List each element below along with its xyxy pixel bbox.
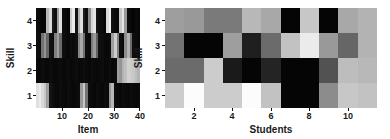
right-xtick-2: 2 <box>191 112 196 121</box>
right-xtickmark-10 <box>348 108 349 111</box>
right-heatmap-cell <box>242 33 261 58</box>
right-xtick-8: 8 <box>306 112 311 121</box>
right-heatmap-plot-area <box>165 8 377 108</box>
right-heatmap-cell <box>184 33 203 58</box>
right-heatmap-cell <box>300 58 319 83</box>
right-heatmap-cell <box>165 58 184 83</box>
right-heatmap-cell <box>223 33 242 58</box>
right-heatmap-cell <box>300 33 319 58</box>
left-xtick-20: 20 <box>83 112 93 121</box>
right-heatmap-cell <box>165 8 184 33</box>
right-heatmap-cell <box>242 8 261 33</box>
right-heatmap-cell <box>184 58 203 83</box>
left-xtickmark-40 <box>139 108 140 111</box>
right-xtick-10: 10 <box>343 112 353 121</box>
left-xtick-10: 10 <box>57 112 67 121</box>
right-heatmap-cell <box>338 8 357 33</box>
left-heatmap-plot-area <box>36 8 140 108</box>
right-yaxis-label: Skill <box>134 48 144 69</box>
right-heatmap-cell <box>261 8 280 33</box>
right-heatmap-cell <box>358 33 377 58</box>
right-heatmap-cell <box>242 58 261 83</box>
right-heatmap-cell <box>261 58 280 83</box>
right-heatmap-cell <box>338 83 357 108</box>
right-heatmap-cell <box>184 8 203 33</box>
right-xtickmark-8 <box>309 108 310 111</box>
right-heatmap-cell <box>281 83 300 108</box>
right-heatmap-cell <box>358 58 377 83</box>
right-heatmap-cell <box>300 83 319 108</box>
left-ytickmark-2 <box>33 70 36 71</box>
left-xtick-30: 30 <box>109 112 119 121</box>
right-heatmap-cell <box>242 83 261 108</box>
right-ytick-2: 2 <box>148 66 160 75</box>
left-ytick-2: 2 <box>20 66 32 75</box>
left-ytick-3: 3 <box>20 41 32 50</box>
right-heatmap-cell <box>338 33 357 58</box>
right-heatmap-cell <box>223 83 242 108</box>
right-heatmap-cell <box>204 83 223 108</box>
right-heatmap-cell <box>165 33 184 58</box>
right-heatmap-cell <box>223 8 242 33</box>
right-heatmap-cell <box>204 33 223 58</box>
right-ytickmark-2 <box>162 70 165 71</box>
right-xtickmark-4 <box>232 108 233 111</box>
right-xaxis-label: Students <box>250 125 293 135</box>
left-ytick-1: 1 <box>20 91 32 100</box>
left-ytickmark-3 <box>33 45 36 46</box>
right-xtickmark-2 <box>194 108 195 111</box>
right-heatmap-cell <box>204 8 223 33</box>
right-heatmap-cell <box>261 33 280 58</box>
right-heatmap-cell <box>319 8 338 33</box>
right-xtick-4: 4 <box>229 112 234 121</box>
right-ytick-1: 1 <box>148 91 160 100</box>
right-heatmap-cell <box>319 33 338 58</box>
left-ytickmark-1 <box>33 95 36 96</box>
left-heatmap-cell <box>137 8 140 33</box>
right-heatmap-cell <box>281 33 300 58</box>
right-xtickmark-6 <box>271 108 272 111</box>
right-heatmap-cell <box>261 83 280 108</box>
right-heatmap-cell <box>338 58 357 83</box>
left-heatmap-cell <box>137 83 140 108</box>
right-ytick-4: 4 <box>148 16 160 25</box>
left-xtickmark-10 <box>62 108 63 111</box>
right-heatmap-cell <box>281 8 300 33</box>
right-xtick-6: 6 <box>268 112 273 121</box>
right-heatmap-cell <box>319 58 338 83</box>
right-heatmap-cell <box>165 83 184 108</box>
right-heatmap-cell <box>223 58 242 83</box>
right-heatmap-cell <box>204 58 223 83</box>
right-heatmap-cell <box>300 8 319 33</box>
left-xtickmark-20 <box>88 108 89 111</box>
panel-item-skill-heatmap: 4 3 2 1 Skill 10 20 30 40 Item <box>0 0 160 139</box>
left-xaxis-label: Item <box>78 125 99 135</box>
right-heatmap-cell <box>358 8 377 33</box>
right-heatmap-cell <box>281 58 300 83</box>
left-xtick-40: 40 <box>135 112 145 121</box>
right-ytickmark-4 <box>162 20 165 21</box>
right-ytickmark-1 <box>162 95 165 96</box>
left-ytick-4: 4 <box>20 16 32 25</box>
right-heatmap-cell <box>184 83 203 108</box>
panel-student-skill-heatmap: 4 3 2 1 Skill 2 4 6 8 10 Students <box>160 0 390 139</box>
left-xtickmark-30 <box>114 108 115 111</box>
right-heatmap-cell <box>319 83 338 108</box>
right-heatmap-cell <box>358 83 377 108</box>
left-yaxis-label: Skill <box>6 48 16 69</box>
left-heatmap-grid <box>36 8 140 108</box>
right-ytick-3: 3 <box>148 41 160 50</box>
figure-container: 4 3 2 1 Skill 10 20 30 40 Item 4 3 2 1 <box>0 0 390 139</box>
left-ytickmark-4 <box>33 20 36 21</box>
right-ytickmark-3 <box>162 45 165 46</box>
right-heatmap-grid <box>165 8 377 108</box>
